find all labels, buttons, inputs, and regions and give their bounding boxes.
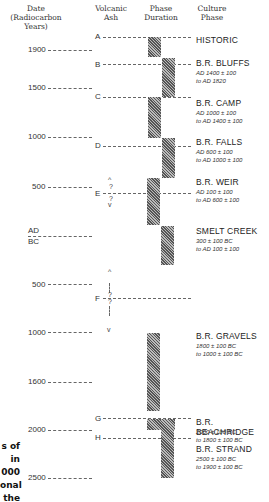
date-tick-2000-bc: 2000 bbox=[28, 425, 46, 434]
header-culture-phase: Culture Phase bbox=[192, 4, 232, 22]
uncertainty-up-caret-f: ^ bbox=[108, 268, 111, 275]
uncertainty-up-caret-e: ^ bbox=[108, 176, 111, 183]
header-phase-line2: Duration bbox=[140, 13, 182, 22]
header-date-line2: (Radiocarbon Years) bbox=[0, 13, 72, 31]
duration-bar-camp bbox=[148, 97, 161, 138]
date-tick-1000-bc: 1000 bbox=[28, 328, 46, 337]
date-tick-1500: 1500 bbox=[28, 83, 46, 92]
date-tick-line bbox=[48, 88, 92, 89]
caption-fragment: 000 bbox=[0, 466, 20, 479]
phase-name-smelt-creek: SMELT CREEK bbox=[196, 226, 257, 236]
caption-fragment: s of bbox=[0, 440, 20, 453]
header-ash-line2: Ash bbox=[90, 13, 132, 22]
uncertainty-down-caret-e: v bbox=[108, 201, 112, 208]
date-tick-line bbox=[48, 187, 92, 188]
date-tick-bc: BC bbox=[28, 237, 39, 246]
phase-range-falls-start: AD 600 ± 100 bbox=[196, 148, 233, 156]
date-tick-1600-bc: 1600 bbox=[28, 377, 46, 386]
header-date-line1: Date bbox=[0, 4, 72, 13]
phase-range-beachridge-start: 2000 ± 100 BC bbox=[196, 428, 236, 436]
date-tick-500-ad: 500 bbox=[32, 182, 45, 191]
phase-name-strand: B.R. STRAND bbox=[196, 444, 252, 454]
duration-bar-bluffs bbox=[162, 58, 175, 97]
phase-range-strand-start: 2500 ± 100 BC bbox=[196, 455, 236, 463]
duration-bar-falls bbox=[162, 138, 175, 178]
header-phase-line1: Phase bbox=[140, 4, 182, 13]
date-tick-1000-ad: 1000 bbox=[28, 132, 46, 141]
caption-fragment: the bbox=[0, 492, 20, 502]
date-tick-line bbox=[48, 332, 92, 333]
header-culture-line2: Phase bbox=[192, 13, 232, 22]
ash-marker-a: A bbox=[95, 32, 100, 41]
ash-marker-b: B bbox=[95, 60, 100, 69]
date-tick-ad: AD bbox=[28, 226, 39, 235]
ash-line-d bbox=[103, 146, 191, 147]
date-tick-line bbox=[48, 478, 92, 479]
ash-marker-e: E bbox=[95, 189, 100, 198]
header-date: Date (Radiocarbon Years) bbox=[0, 4, 72, 31]
header-ash-line1: Volcanic bbox=[90, 4, 132, 13]
uncertainty-down-caret-f: v bbox=[107, 326, 111, 333]
duration-bar-weir bbox=[147, 178, 160, 225]
caption-fragment: onal bbox=[0, 479, 20, 492]
header-culture-line1: Culture bbox=[192, 4, 232, 13]
ash-marker-g: G bbox=[95, 414, 101, 423]
duration-bar-smelt-creek bbox=[161, 226, 174, 265]
date-tick-line bbox=[48, 430, 92, 431]
date-tick-line bbox=[48, 137, 92, 138]
phase-range-weir-end: to AD 600 ± 100 bbox=[196, 196, 239, 204]
caption-fragment: in bbox=[0, 453, 20, 466]
phase-name-weir: B.R. WEIR bbox=[196, 177, 239, 187]
date-tick-line bbox=[48, 382, 92, 383]
ash-marker-h: H bbox=[95, 433, 101, 442]
phase-range-camp-end: to AD 1400 ± 100 bbox=[196, 117, 242, 125]
phase-range-gravels-start: 1800 ± 100 BC bbox=[196, 342, 236, 350]
phase-range-weir-start: AD 100 ± 100 bbox=[196, 188, 233, 196]
uncertainty-stem-f-bottom bbox=[109, 306, 110, 316]
phase-name-bluffs: B.R. BLUFFS bbox=[196, 58, 250, 68]
phase-name-camp: B.R. CAMP bbox=[196, 98, 241, 108]
header-volcanic-ash: Volcanic Ash bbox=[90, 4, 132, 22]
header-phase-duration: Phase Duration bbox=[140, 4, 182, 22]
ash-marker-d: D bbox=[95, 141, 101, 150]
uncertainty-question-f1: ? bbox=[108, 291, 112, 298]
phase-name-falls: B.R. FALLS bbox=[196, 137, 242, 147]
date-tick-2500-bc: 2500 bbox=[28, 473, 46, 482]
phase-name-historic: HISTORIC bbox=[196, 35, 238, 45]
duration-bar-gravels bbox=[147, 333, 160, 411]
phase-range-camp-start: AD 1000 ± 100 bbox=[196, 109, 236, 117]
ash-line-b bbox=[103, 64, 191, 65]
phase-range-gravels-end: to 1000 ± 100 BC bbox=[196, 350, 243, 358]
phase-range-strand-end: to 1900 ± 100 BC bbox=[196, 463, 243, 471]
date-tick-1900: 1900 bbox=[28, 45, 46, 54]
ash-line-f bbox=[103, 298, 191, 299]
date-tick-500-bc: 500 bbox=[32, 280, 45, 289]
phase-range-smelt-creek-start: 300 ± 100 BC bbox=[196, 237, 233, 245]
duration-bar-strand bbox=[161, 419, 174, 478]
uncertainty-question-f2: ? bbox=[108, 298, 112, 305]
ash-line-a bbox=[103, 37, 191, 38]
phase-range-beachridge-end: to 1800 ± 100 BC bbox=[196, 436, 243, 444]
ash-marker-f: F bbox=[95, 294, 100, 303]
date-tick-line bbox=[48, 50, 92, 51]
phase-range-bluffs-end: to AD 1820 bbox=[196, 77, 226, 85]
phase-range-falls-end: to AD 1000 ± 100 bbox=[196, 156, 242, 164]
uncertainty-question-e1: ? bbox=[109, 183, 113, 190]
phase-range-smelt-creek-end: to AD 100 ± 100 bbox=[196, 245, 239, 253]
phase-range-bluffs-start: AD 1400 ± 100 bbox=[196, 69, 236, 77]
duration-bar-historic bbox=[148, 37, 161, 57]
ash-line-c bbox=[103, 97, 191, 98]
phase-name-gravels: B.R. GRAVELS bbox=[196, 331, 257, 341]
ash-line-h bbox=[103, 438, 191, 439]
ash-marker-c: C bbox=[95, 92, 101, 101]
date-tick-line bbox=[48, 284, 92, 285]
